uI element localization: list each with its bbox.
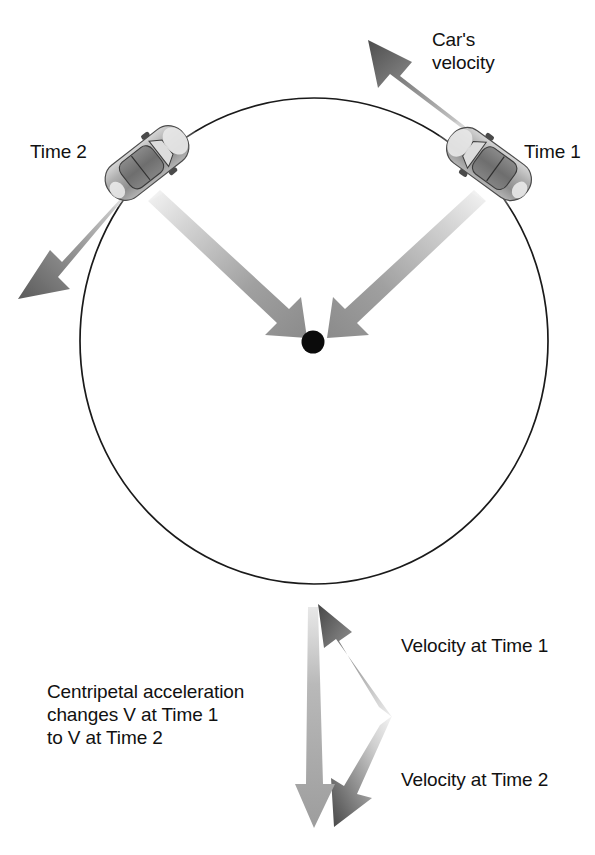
center-dot <box>302 331 325 354</box>
time-2-label: Time 2 <box>30 140 87 163</box>
time-1-label: Time 1 <box>524 140 581 163</box>
centripetal-arrow-from-time-2 <box>148 190 307 338</box>
car-time-2 <box>80 100 213 225</box>
velocity-at-time-2-label: Velocity at Time 2 <box>401 768 548 791</box>
triangle-velocity-time-2-arrow <box>331 716 392 827</box>
centripetal-arrow-from-time-1 <box>327 190 486 338</box>
triangle-velocity-time-1-arrow <box>318 604 392 717</box>
centripetal-acceleration-figure: Car's velocity Time 2 Time 1 Velocity at… <box>0 0 595 855</box>
car-time-1 <box>422 102 556 225</box>
velocity-at-time-1-label: Velocity at Time 1 <box>401 634 548 657</box>
centripetal-acceleration-note: Centripetal acceleration changes V at Ti… <box>47 680 244 749</box>
cars-velocity-label: Car's velocity <box>432 28 495 74</box>
